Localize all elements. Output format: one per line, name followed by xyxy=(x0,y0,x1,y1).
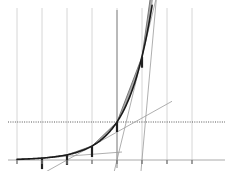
chart-background xyxy=(0,0,229,171)
chart-canvas xyxy=(0,0,229,171)
exponential-trapezoid-figure xyxy=(0,0,229,171)
